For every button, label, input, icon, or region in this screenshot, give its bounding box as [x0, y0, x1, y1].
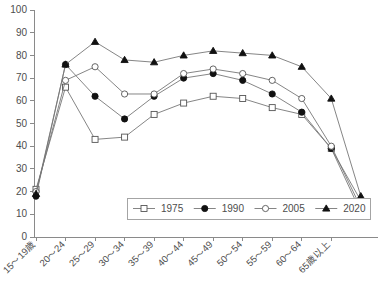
y-tick-label: 90 [16, 27, 28, 38]
x-tick-label: 45～49 [185, 239, 215, 269]
y-tick-label: 50 [16, 118, 28, 129]
x-axis-ticks: 15～19歳20～2425～2930～3435～3940～4445～4950～5… [1, 237, 333, 276]
chart-canvas: 010203040506070809010015～19歳20～2425～2930… [0, 0, 385, 285]
y-tick-label: 70 [16, 72, 28, 83]
x-tick-label: 20～24 [37, 239, 67, 269]
y-tick-label: 100 [10, 4, 27, 15]
x-tick-label: 65歳以上 [296, 239, 332, 275]
chart-legend: 1975199020052020 [127, 198, 370, 219]
series-1990 [33, 61, 364, 203]
x-tick-label: 50～54 [214, 239, 244, 269]
legend-label: 1975 [161, 203, 184, 214]
y-tick-label: 40 [16, 140, 28, 151]
y-tick-label: 60 [16, 95, 28, 106]
x-tick-label: 35～39 [126, 239, 156, 269]
series-1975 [33, 84, 364, 215]
y-tick-label: 20 [16, 186, 28, 197]
y-tick-label: 80 [16, 50, 28, 61]
x-tick-label: 40～44 [155, 239, 185, 269]
x-tick-label: 30～34 [96, 239, 126, 269]
x-tick-label: 15～19歳 [1, 239, 38, 276]
legend-label: 2005 [283, 203, 306, 214]
legend-label: 2020 [343, 203, 366, 214]
x-tick-label: 25～29 [67, 239, 97, 269]
series-2005 [33, 64, 364, 211]
x-tick-label: 55～59 [244, 239, 274, 269]
y-tick-label: 30 [16, 163, 28, 174]
y-tick-label: 10 [16, 208, 28, 219]
legend-label: 1990 [222, 203, 245, 214]
line-chart: 010203040506070809010015～19歳20～2425～2930… [0, 0, 385, 285]
y-axis-ticks: 0102030405060708090100 [10, 4, 34, 242]
